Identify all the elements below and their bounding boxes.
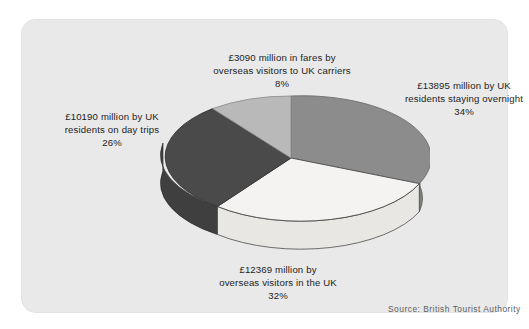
pie-label-descriptor: residents staying overnight xyxy=(388,92,529,105)
pie-label-fares-overseas-visitors-uk-carriers: £3090 million in fares by overseas visit… xyxy=(172,51,392,91)
pie-label-percent: 26% xyxy=(36,136,188,149)
pie-label-amount: £12369 million by xyxy=(170,263,386,276)
pie-label-percent: 32% xyxy=(170,289,386,302)
pie-label-descriptor: residents on day trips xyxy=(36,123,188,136)
pie-label-amount: £13895 million by UK xyxy=(388,79,529,92)
pie-label-uk-residents-staying-overnight: £13895 million by UK residents staying o… xyxy=(388,79,529,119)
pie-label-amount: £3090 million in fares by xyxy=(172,51,392,64)
pie-label-percent: 34% xyxy=(388,105,529,118)
pie-label-descriptor: overseas visitors in the UK xyxy=(170,276,386,289)
source-note: Source: British Tourist Authority xyxy=(388,304,520,314)
pie-label-amount: £10190 million by UK xyxy=(36,110,188,123)
pie-label-overseas-visitors-in-uk: £12369 million by overseas visitors in t… xyxy=(170,263,386,303)
chart-figure: £3090 million in fares by overseas visit… xyxy=(0,0,529,329)
pie-label-descriptor: overseas visitors to UK carriers xyxy=(172,64,392,77)
chart-card: £3090 million in fares by overseas visit… xyxy=(22,20,507,312)
pie-label-uk-residents-day-trips: £10190 million by UK residents on day tr… xyxy=(36,110,188,150)
pie-label-percent: 8% xyxy=(172,77,392,90)
